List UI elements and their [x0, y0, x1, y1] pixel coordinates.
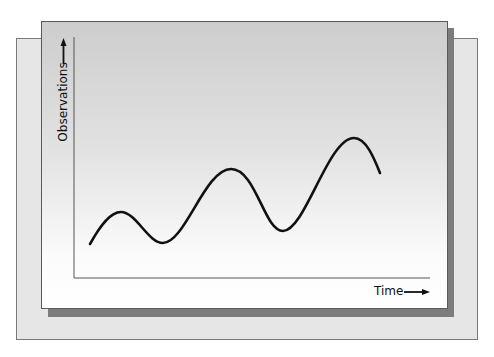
y-axis-label: Observations: [56, 62, 70, 141]
x-axis-label: Time: [374, 284, 403, 298]
right-arrow-icon: [404, 289, 430, 295]
observation-curve: [90, 138, 380, 244]
chart-canvas: [0, 0, 494, 357]
up-arrow-icon: [61, 38, 67, 64]
